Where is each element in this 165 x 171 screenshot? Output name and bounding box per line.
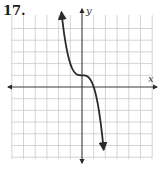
y-axis-label: y (85, 5, 92, 16)
x-axis-label: x (148, 73, 154, 84)
function-curve (62, 13, 104, 150)
cubic-function-graph: x y (0, 0, 165, 171)
